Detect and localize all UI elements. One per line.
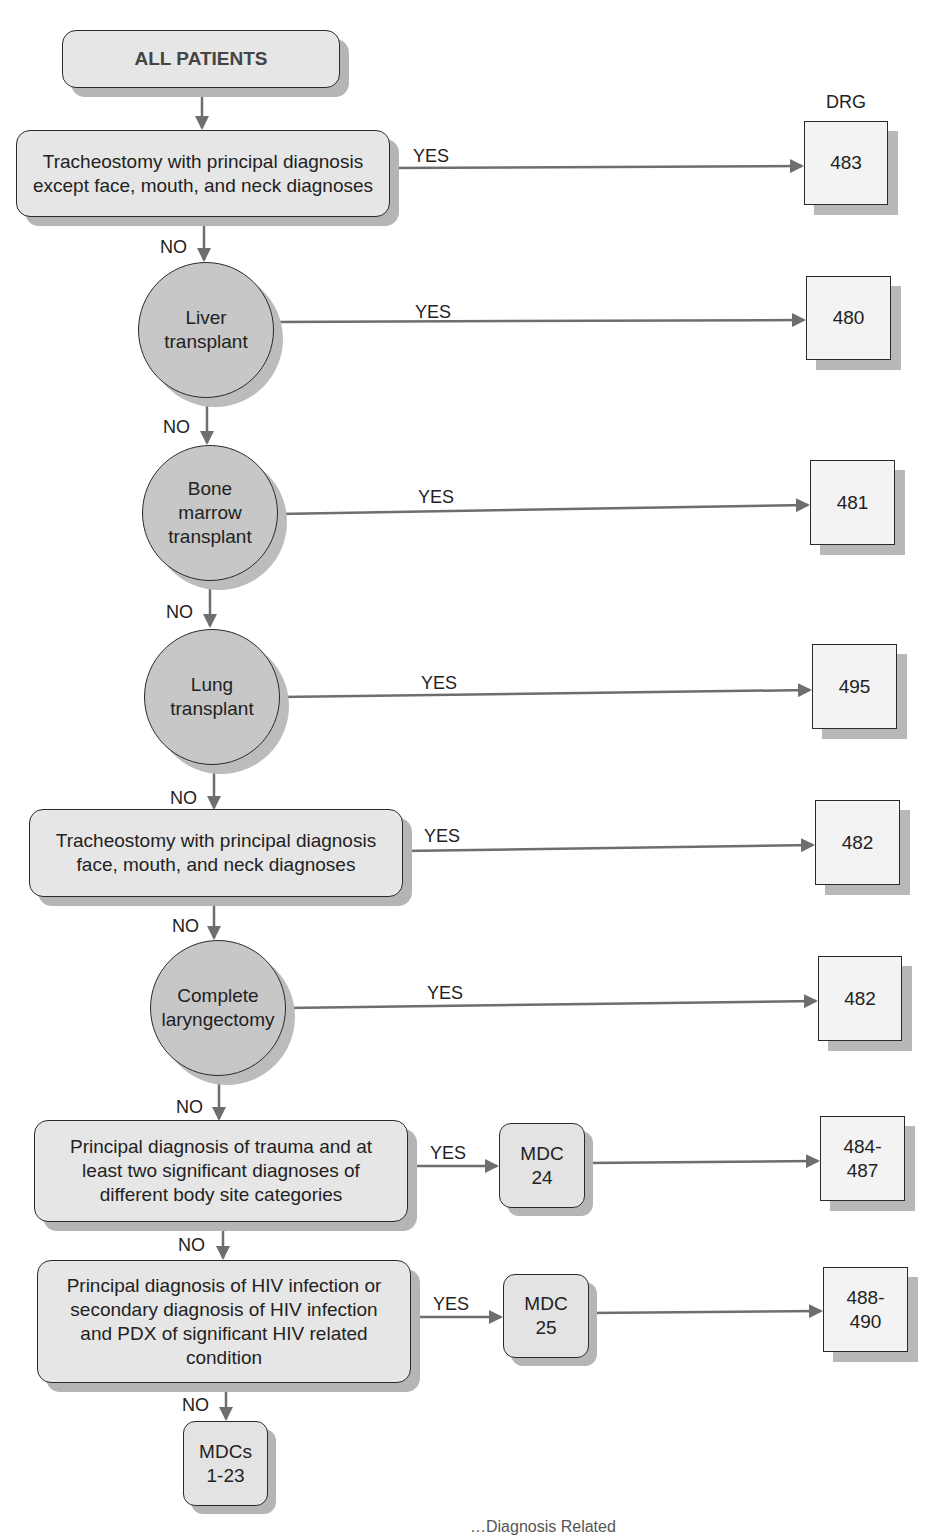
decision-text-line: Tracheostomy with principal diagnosis: [56, 829, 376, 853]
mdc-25-box: MDC 25: [503, 1274, 589, 1358]
drg-box-484-487: 484- 487: [820, 1116, 905, 1201]
drg-code: 488-: [846, 1286, 884, 1310]
mdc-text: 25: [535, 1316, 556, 1340]
yes-label: YES: [424, 826, 460, 847]
yes-label: YES: [415, 302, 451, 323]
drg-box-480: 480: [806, 276, 891, 360]
start-node-all-patients: ALL PATIENTS: [62, 30, 340, 88]
decision-text-line: except face, mouth, and neck diagnoses: [33, 174, 373, 198]
mdc-text: 24: [531, 1166, 552, 1190]
no-label: NO: [166, 602, 193, 623]
no-label: NO: [178, 1235, 205, 1256]
figure-caption-partial: …Diagnosis Related: [470, 1518, 616, 1536]
no-label: NO: [160, 237, 187, 258]
mdc-24-box: MDC 24: [499, 1123, 585, 1208]
drg-column-header: DRG: [826, 92, 866, 113]
mdc-text: MDC: [524, 1292, 567, 1316]
drg-box-482-a: 482: [815, 800, 900, 885]
decision-text-line: marrow: [178, 501, 241, 525]
decision-text-line: and PDX of significant HIV related: [80, 1322, 367, 1346]
drg-code: 487: [847, 1159, 879, 1183]
drg-box-483: 483: [804, 121, 888, 205]
decision-text-line: different body site categories: [100, 1183, 343, 1207]
decision-text-line: laryngectomy: [162, 1008, 275, 1032]
yes-label: YES: [430, 1143, 466, 1164]
yes-label: YES: [433, 1294, 469, 1315]
decision-tracheostomy-except-fmn: Tracheostomy with principal diagnosis ex…: [16, 130, 390, 217]
decision-hiv-infection: Principal diagnosis of HIV infection or …: [37, 1260, 411, 1383]
decision-text-line: Principal diagnosis of trauma and at: [70, 1135, 372, 1159]
decision-text-line: least two significant diagnoses of: [82, 1159, 360, 1183]
start-label: ALL PATIENTS: [135, 47, 268, 71]
drg-box-495: 495: [812, 644, 897, 729]
decision-text-line: Bone: [188, 477, 232, 501]
decision-bone-marrow-transplant: Bone marrow transplant: [142, 445, 278, 581]
drg-box-481: 481: [810, 460, 895, 545]
decision-text-line: face, mouth, and neck diagnoses: [77, 853, 356, 877]
drg-code: 482: [842, 831, 874, 855]
decision-text-line: Liver: [185, 306, 226, 330]
drg-code: 480: [833, 306, 865, 330]
decision-text-line: secondary diagnosis of HIV infection: [70, 1298, 377, 1322]
drg-code: 484-: [843, 1135, 881, 1159]
yes-label: YES: [413, 146, 449, 167]
mdc-text: 1-23: [206, 1464, 244, 1488]
decision-text-line: Lung: [191, 673, 233, 697]
drg-box-488-490: 488- 490: [823, 1267, 908, 1352]
drg-code: 481: [837, 491, 869, 515]
decision-text-line: condition: [186, 1346, 262, 1370]
decision-lung-transplant: Lung transplant: [144, 629, 280, 765]
mdcs-1-23-box: MDCs 1-23: [183, 1421, 268, 1506]
decision-text-line: Complete: [177, 984, 258, 1008]
no-label: NO: [170, 788, 197, 809]
yes-label: YES: [421, 673, 457, 694]
mdc-text: MDCs: [199, 1440, 252, 1464]
drg-code: 495: [839, 675, 871, 699]
yes-label: YES: [418, 487, 454, 508]
decision-liver-transplant: Liver transplant: [138, 262, 274, 398]
drg-code: 483: [830, 151, 862, 175]
no-label: NO: [163, 417, 190, 438]
drg-code: 490: [850, 1310, 882, 1334]
drg-box-482-b: 482: [818, 956, 902, 1041]
no-label: NO: [176, 1097, 203, 1118]
no-label: NO: [172, 916, 199, 937]
no-label: NO: [182, 1395, 209, 1416]
decision-text-line: Tracheostomy with principal diagnosis: [43, 150, 363, 174]
drg-code: 482: [844, 987, 876, 1011]
decision-text-line: transplant: [164, 330, 247, 354]
decision-text-line: Principal diagnosis of HIV infection or: [67, 1274, 382, 1298]
decision-complete-laryngectomy: Complete laryngectomy: [150, 940, 286, 1076]
decision-tracheostomy-fmn: Tracheostomy with principal diagnosis fa…: [29, 809, 403, 897]
decision-text-line: transplant: [168, 525, 251, 549]
mdc-text: MDC: [520, 1142, 563, 1166]
decision-text-line: transplant: [170, 697, 253, 721]
yes-label: YES: [427, 983, 463, 1004]
decision-multiple-trauma: Principal diagnosis of trauma and at lea…: [34, 1120, 408, 1222]
